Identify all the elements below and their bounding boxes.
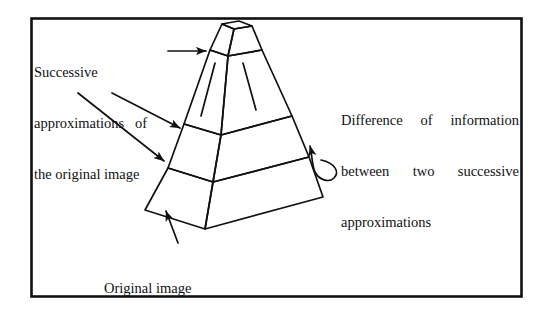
label-successive-line-1: Successive: [34, 64, 147, 81]
figure-root: Successive approximations of the origina…: [0, 0, 546, 316]
pyramid-interior-crease-lines: [201, 63, 256, 116]
label-difference-line-2-word-1: between: [341, 163, 389, 180]
arrow-to-base: [166, 211, 178, 243]
pyramid: [145, 21, 323, 229]
label-original-image: Original image: [104, 246, 191, 316]
pyramid-level-3: [168, 116, 309, 182]
label-successive-line-3: the original image: [34, 166, 147, 183]
label-difference-line-1-word-3: information: [451, 112, 519, 129]
pyramid-level-4-base: [145, 157, 323, 229]
label-difference-line-2-word-2: two: [413, 163, 435, 180]
label-difference-line-1-word-2: of: [421, 112, 433, 129]
label-difference-of-information: Difference of information between two su…: [341, 78, 519, 265]
label-difference-line-2-word-3: successive: [458, 163, 519, 180]
label-difference-line-2: between two successive: [341, 163, 519, 180]
arrow-curved-to-layer: [310, 146, 336, 180]
label-difference-line-3: approximations: [341, 214, 519, 231]
label-original-line-1: Original image: [104, 280, 191, 297]
pyramid-level-2: [184, 50, 292, 135]
label-successive-approximations: Successive approximations of the origina…: [34, 30, 147, 217]
label-difference-line-1-word-1: Difference: [341, 112, 403, 129]
label-successive-line-2: approximations of: [34, 115, 147, 132]
label-difference-line-1: Difference of information: [341, 112, 519, 129]
